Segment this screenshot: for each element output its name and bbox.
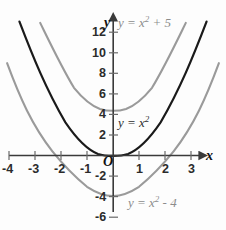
x-axis-tick-label-1: 1 [136, 163, 143, 176]
origin-label: O [103, 155, 113, 169]
y-axis-tick-label-4: 4 [99, 108, 106, 121]
x-axis-tick-label--3: -3 [28, 163, 39, 176]
coordinate-plane-svg [0, 0, 226, 230]
y-axis-tick-label-2: 2 [99, 129, 106, 142]
x-axis-tick-label-2: 2 [162, 163, 169, 176]
y-axis-tick-label-10: 10 [92, 47, 106, 60]
parabola-transformations-graph: -4 -3 -2 -1 1 2 3 12 10 8 6 4 2 -2 -4 -6… [0, 0, 226, 230]
y-axis-tick-label-6: 6 [99, 88, 106, 101]
x-axis-tick-label--2: -2 [54, 163, 65, 176]
curve-label-bottom-lead: y = x [128, 195, 155, 210]
x-axis-tick-label-3: 3 [188, 163, 195, 176]
x-axis-tick-label--4: -4 [2, 163, 13, 176]
curve-label-top-tail: + 5 [149, 15, 171, 30]
y-axis-tick-label-8: 8 [99, 67, 106, 80]
curve-label-y-equals-x-squared: y = x2 [118, 116, 149, 129]
x-axis-name-label: x [206, 149, 213, 163]
curve-label-bottom-tail: - 4 [159, 195, 176, 210]
y-axis-tick-label--4: -4 [95, 191, 106, 204]
curve-label-y-equals-x-squared-plus-5: y = x2 + 5 [118, 16, 171, 29]
x-axis-tick-label--1: -1 [80, 163, 91, 176]
y-axis-tick-label--6: -6 [95, 211, 106, 224]
curve-label-top-lead: y = x [118, 15, 145, 30]
y-axis-name-label: y [104, 16, 110, 30]
y-axis-tick-label--2: -2 [95, 170, 106, 183]
curve-label-y-equals-x-squared-minus-4: y = x2 - 4 [128, 196, 177, 209]
curve-label-mid-lead: y = x [118, 115, 145, 130]
curve-label-mid-exponent: 2 [145, 114, 150, 124]
